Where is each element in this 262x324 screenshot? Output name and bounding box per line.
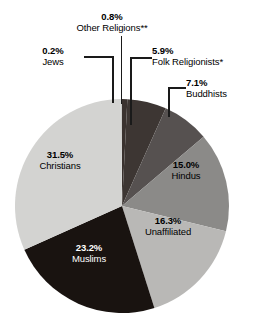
callout-buddhists-name: Buddhists (186, 89, 258, 100)
callout-folk-religionists: 5.9% Folk Religionists* (152, 46, 256, 67)
callout-buddhists: 7.1% Buddhists (186, 78, 258, 99)
slice-label-muslims-name: Muslims (54, 254, 124, 265)
slice-label-muslims: 23.2% Muslims (54, 243, 124, 265)
slice-label-christians-name: Christians (22, 161, 98, 172)
callout-other-religions-name: Other Religions** (56, 23, 168, 34)
slice-label-unaffiliated: 16.3% Unaffiliated (128, 216, 208, 238)
callout-jews: 0.2% Jews (22, 46, 84, 67)
slice-label-christians: 31.5% Christians (22, 150, 98, 172)
pie-chart: 0.8% Other Religions** 0.2% Jews 5.9% Fo… (0, 0, 262, 324)
callout-folk-religionists-name: Folk Religionists* (152, 57, 256, 68)
pie-slices (15, 99, 229, 313)
slice-label-unaffiliated-name: Unaffiliated (128, 227, 208, 238)
leader-line-jews (84, 57, 113, 103)
slice-label-hindus-name: Hindus (154, 171, 218, 182)
callout-jews-name: Jews (22, 57, 84, 68)
callout-other-religions: 0.8% Other Religions** (56, 12, 168, 33)
slice-label-hindus: 15.0% Hindus (154, 160, 218, 182)
